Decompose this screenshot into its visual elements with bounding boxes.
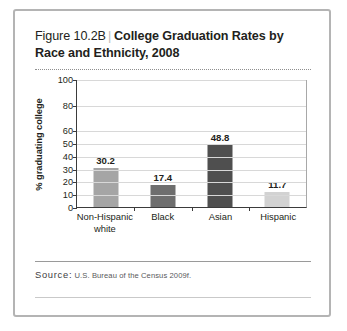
gridline	[77, 131, 306, 132]
gridline	[77, 80, 306, 81]
y-tick-mark	[73, 106, 77, 107]
bar[interactable]	[208, 145, 233, 207]
y-axis-label-text: % graduating college	[33, 98, 44, 190]
figure-card: Figure 10.2B|College Graduation Rates by…	[13, 9, 331, 317]
y-tick-label: 40	[47, 152, 73, 162]
source-block: Source: U.S. Bureau of the Census 2009f.	[35, 261, 311, 298]
title-dotted-rule	[35, 69, 311, 71]
source-citation: U.S. Bureau of the Census 2009f.	[75, 271, 192, 280]
y-tick-label: 80	[47, 101, 73, 111]
gridline	[77, 144, 306, 145]
y-tick-label: 20	[47, 177, 73, 187]
x-axis-tick-labels: Non-HispanicwhiteBlackAsianHispanic	[76, 211, 307, 241]
title-divider: |	[106, 28, 114, 45]
y-tick-mark	[73, 157, 77, 158]
y-tick-label: 60	[47, 126, 73, 136]
source-rule-bottom	[35, 297, 311, 298]
gridline	[77, 157, 306, 158]
bar[interactable]	[93, 168, 118, 207]
y-tick-label: 30	[47, 165, 73, 175]
source-text: Source: U.S. Bureau of the Census 2009f.	[35, 269, 311, 280]
gridline	[77, 182, 306, 183]
bar-value-label: 11.7	[268, 179, 286, 190]
source-rule-top	[35, 261, 311, 262]
figure-number: Figure 10.2B	[35, 29, 106, 43]
y-tick-mark	[73, 80, 77, 81]
y-axis-label: % graduating college	[31, 80, 45, 208]
bar-chart: % graduating college 010203040506080100 …	[35, 80, 311, 230]
y-tick-label: 0	[47, 203, 73, 213]
y-tick-mark	[73, 170, 77, 171]
y-tick-label: 50	[47, 139, 73, 149]
gridline	[77, 106, 306, 107]
gridline	[77, 195, 306, 196]
y-tick-mark	[73, 131, 77, 132]
x-tick-label: Asian	[209, 211, 232, 223]
y-axis-tick-labels: 010203040506080100	[47, 80, 73, 208]
bar-value-label: 48.8	[211, 132, 230, 143]
y-tick-label: 100	[47, 75, 73, 85]
y-tick-mark	[73, 208, 77, 209]
gridline	[77, 170, 306, 171]
x-tick-label: Hispanic	[260, 211, 296, 223]
x-tick-label: Non-Hispanicwhite	[77, 211, 133, 234]
figure-inner: Figure 10.2B|College Graduation Rates by…	[15, 11, 329, 315]
y-tick-mark	[73, 144, 77, 145]
y-tick-label: 10	[47, 190, 73, 200]
bar-value-label: 17.4	[154, 172, 173, 183]
source-label: Source:	[35, 269, 72, 280]
x-tick-label: Black	[151, 211, 174, 223]
y-tick-mark	[73, 182, 77, 183]
y-tick-mark	[73, 195, 77, 196]
figure-title: Figure 10.2B|College Graduation Rates by…	[35, 28, 311, 61]
plot-area: 30.217.448.811.7	[76, 80, 307, 208]
